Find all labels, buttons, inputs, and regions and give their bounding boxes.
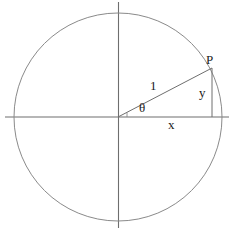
angle-theta-label: θ [139, 101, 145, 114]
vertical-leg-label: y [199, 86, 206, 99]
unit-circle-figure: P 1 y x θ [0, 0, 230, 230]
point-p-label: P [206, 53, 213, 66]
horizontal-leg-label: x [168, 118, 175, 131]
radius-segment [118, 68, 212, 117]
figure-canvas [0, 0, 230, 230]
hypotenuse-length-label: 1 [150, 79, 157, 92]
